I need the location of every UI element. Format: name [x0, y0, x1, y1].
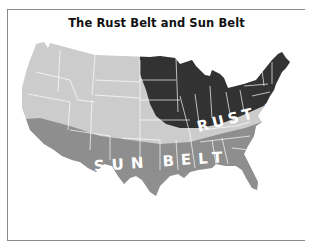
us-map: RUST BELT SUN BELT: [0, 0, 313, 247]
